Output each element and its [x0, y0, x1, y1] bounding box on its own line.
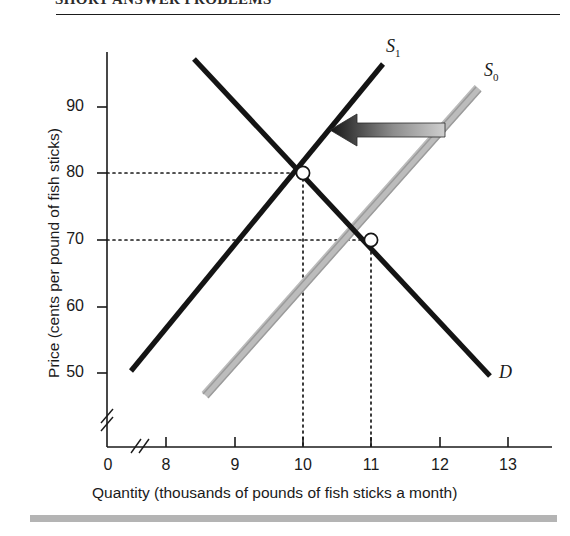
- curve-label-d: D: [499, 362, 512, 383]
- x-tick-label-13: 13: [493, 456, 523, 474]
- original-equilibrium-marker: [364, 233, 377, 246]
- x-axis-title: Quantity (thousands of pounds of fish st…: [92, 484, 457, 502]
- y-axis-ticks: [97, 107, 107, 373]
- curve-label-s1-text: S: [386, 36, 395, 56]
- x-tick-label-8: 8: [151, 456, 181, 474]
- x-axis-break-icon: [131, 439, 149, 453]
- new-equilibrium-marker: [296, 166, 309, 179]
- demand-curve: [194, 59, 490, 376]
- x-tick-label-10: 10: [288, 456, 318, 474]
- x-tick-label-11: 11: [356, 456, 386, 474]
- footer-divider-rule: [30, 515, 557, 522]
- curve-label-s1-sub: 1: [395, 47, 401, 59]
- x-tick-label-12: 12: [425, 456, 455, 474]
- x-axis-ticks: [166, 437, 508, 447]
- x-tick-label-0: 0: [93, 456, 123, 474]
- curve-label-s0-sub: 0: [493, 71, 499, 83]
- x-tick-label-9: 9: [220, 456, 250, 474]
- curve-label-s0: S0: [484, 60, 499, 83]
- y-axis-title: Price (cents per pound of fish sticks): [45, 103, 63, 403]
- curve-label-s0-text: S: [484, 60, 493, 80]
- curve-label-s1: S1: [386, 36, 401, 59]
- figure-container: SHORT ANSWER PROBLEMS: [0, 0, 570, 536]
- guide-lines: [107, 173, 371, 447]
